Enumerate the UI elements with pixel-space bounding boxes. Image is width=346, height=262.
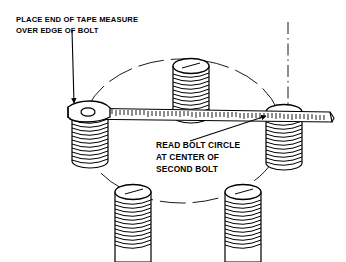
bolt-bottom-left [115,185,151,262]
bolt-circle-diagram: PLACE END OF TAPE MEASURE OVER EDGE OF B… [0,0,346,262]
place-end-note-line1: PLACE END OF TAPE MEASURE [16,15,138,24]
read-bolt-note-line1: READ BOLT CIRCLE [156,140,240,150]
tape-end-hook [68,101,110,122]
diagram-canvas: PLACE END OF TAPE MEASURE OVER EDGE OF B… [0,0,346,262]
tape-hook-hole [81,108,95,116]
read-bolt-note-line2: AT CENTER OF [156,152,219,162]
bolt-bottom-right [225,185,261,262]
read-bolt-note-line3: SECOND BOLT [156,164,219,174]
place-end-note-line2: OVER EDGE OF BOLT [16,26,99,35]
